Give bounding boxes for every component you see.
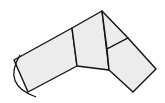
left-arm-shape [14, 28, 77, 92]
geometric-diagram [0, 0, 165, 103]
right-block-shape [107, 38, 156, 92]
